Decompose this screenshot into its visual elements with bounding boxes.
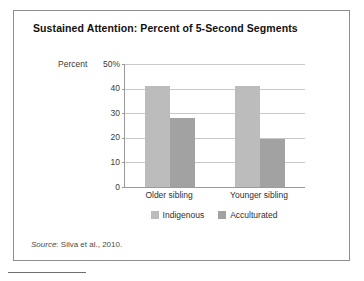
y-tick-label: 50%	[80, 60, 120, 69]
y-tick-label: 40	[80, 84, 120, 93]
y-tick-label: 10	[80, 158, 120, 167]
bar-younger-sibling-indigenous	[235, 86, 260, 187]
x-axis-category-label: Older sibling	[124, 190, 214, 200]
source-citation: : Silva et al., 2010.	[56, 240, 122, 249]
y-tick-mark	[122, 89, 125, 90]
bar-older-sibling-indigenous	[145, 86, 170, 187]
gridline	[125, 64, 305, 65]
y-tick-mark	[122, 162, 125, 163]
y-tick-label: 30	[80, 109, 120, 118]
y-tick-label: 0	[80, 183, 120, 192]
y-axis-labels: 50%403020100	[78, 0, 120, 200]
bar-younger-sibling-acculturated	[260, 139, 285, 187]
legend-swatch-icon	[218, 211, 226, 219]
bar-older-sibling-acculturated	[170, 118, 195, 187]
source-label: Source	[31, 240, 56, 249]
y-tick-mark	[122, 113, 125, 114]
figure-root: Sustained Attention: Percent of 5-Second…	[0, 0, 364, 281]
y-tick-mark	[122, 64, 125, 65]
y-tick-label: 20	[80, 133, 120, 142]
y-tick-mark	[122, 187, 125, 188]
legend-label: Acculturated	[230, 210, 277, 220]
x-axis-category-label: Younger sibling	[214, 190, 304, 200]
source-note: Source: Silva et al., 2010.	[31, 240, 122, 249]
chart-legend: IndigenousAcculturated	[124, 210, 304, 220]
legend-swatch-icon	[151, 211, 159, 219]
bottom-rule	[8, 272, 86, 273]
legend-label: Indigenous	[163, 210, 205, 220]
y-tick-mark	[122, 138, 125, 139]
legend-item-indigenous: Indigenous	[151, 210, 205, 220]
plot-area	[124, 64, 305, 188]
legend-item-acculturated: Acculturated	[218, 210, 277, 220]
